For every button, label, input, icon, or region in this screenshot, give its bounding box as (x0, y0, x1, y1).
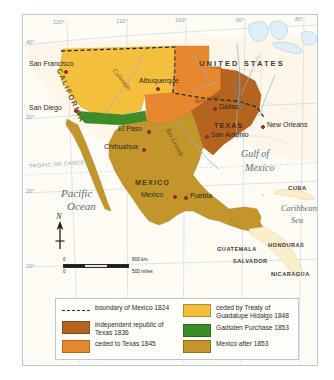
city-dot-san-francisco (64, 70, 68, 74)
legend-label-boundary-1824: boundary of Mexico 1824 (95, 304, 169, 312)
legend-item-guadalupe-hidalgo-1848: ceded by Treaty of Guadalupe Hidalgo 184… (183, 304, 298, 320)
city-dot-chihuahua (142, 148, 146, 152)
legend-swatch-gadsden (183, 324, 211, 337)
scale-miles-label: 500 miles (132, 269, 153, 274)
scale-zero-miles: 0 (63, 269, 66, 274)
city-dot-dallas (213, 107, 217, 111)
scale-km-label: 800 km (132, 257, 148, 262)
scale-bar: 0 800 km 0 500 miles (63, 257, 141, 277)
legend-column-right: ceded by Treaty of Guadalupe Hidalgo 184… (177, 304, 298, 359)
legend-item-boundary-1824: boundary of Mexico 1824 (62, 304, 177, 317)
city-dot-puebla (184, 196, 188, 200)
svg-text:N: N (55, 212, 62, 221)
legend-item-gadsden-1853: Gadsden Purchase 1853 (183, 324, 298, 337)
legend-label-ceded-texas-1845: ceded to Texas 1845 (95, 340, 156, 348)
legend-swatch-republic-texas (62, 321, 90, 334)
legend-item-republic-texas-1836: independent republic of Texas 1836 (62, 321, 177, 337)
legend-label-gadsden-1853: Gadsden Purchase 1853 (216, 324, 289, 332)
map-frame: 120° 110° 100° 90° 80° 40° 30° 20° 10° T… (22, 14, 318, 366)
city-dot-el-paso (147, 130, 151, 134)
legend-swatch-dashed-boundary (62, 304, 90, 317)
legend-column-left: boundary of Mexico 1824 independent repu… (56, 304, 177, 359)
city-dot-san-antonio (205, 135, 209, 139)
city-dot-san-diego (74, 109, 78, 113)
city-dot-albuquerque (156, 87, 160, 91)
scale-zero-km: 0 (63, 257, 66, 262)
legend-label-mexico-after-1853: Mexico after 1853 (216, 340, 268, 348)
map-figure: 120° 110° 100° 90° 80° 40° 30° 20° 10° T… (0, 0, 334, 380)
legend-swatch-guadalupe-hidalgo (183, 304, 211, 317)
legend-item-ceded-texas-1845: ceded to Texas 1845 (62, 340, 177, 353)
legend-swatch-mexico-after-1853 (183, 340, 211, 353)
legend-label-guadalupe-hidalgo-1848: ceded by Treaty of Guadalupe Hidalgo 184… (216, 304, 298, 320)
map-legend: boundary of Mexico 1824 independent repu… (55, 298, 299, 360)
city-dot-new-orleans (261, 125, 265, 129)
compass-rose: N (51, 211, 69, 251)
legend-label-republic-texas-1836: independent republic of Texas 1836 (95, 321, 177, 337)
city-dot-mexico (173, 195, 177, 199)
scale-bar-graphic (63, 264, 129, 268)
legend-item-mexico-after-1853: Mexico after 1853 (183, 340, 298, 353)
legend-swatch-ceded-texas (62, 340, 90, 353)
